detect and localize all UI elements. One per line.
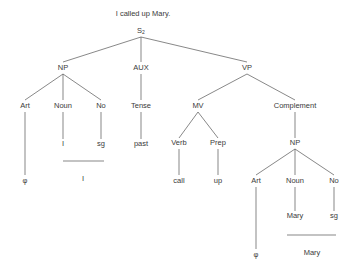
node-complement: Complement: [274, 102, 317, 110]
leaf-c-no: sg: [330, 212, 338, 220]
surface-np: I: [82, 175, 84, 183]
leaf-np-art: φ: [23, 177, 28, 185]
node-s-subscript: 2: [142, 29, 145, 35]
surface-c-np: Mary: [304, 249, 321, 257]
node-c-art: Art: [251, 177, 261, 185]
node-np-art: Art: [20, 102, 30, 110]
node-mv: MV: [192, 102, 203, 110]
node-s2: S2: [137, 27, 145, 35]
node-np-noun: Noun: [54, 102, 72, 110]
node-np: NP: [58, 64, 68, 72]
node-tense: Tense: [131, 102, 151, 110]
leaf-prep: up: [214, 177, 222, 185]
leaf-c-art: φ: [254, 251, 259, 259]
node-prep: Prep: [210, 139, 226, 147]
node-verb: Verb: [171, 139, 186, 147]
leaf-verb: call: [173, 177, 184, 185]
leaf-c-noun: Mary: [287, 212, 304, 220]
node-complement-np: NP: [290, 139, 300, 147]
node-np-no: No: [96, 102, 106, 110]
node-vp: VP: [242, 64, 252, 72]
leaf-tense: past: [134, 140, 148, 148]
leaf-np-noun: I: [62, 140, 64, 148]
leaf-np-no: sg: [97, 140, 105, 148]
node-aux: AUX: [133, 64, 148, 72]
node-c-no: No: [329, 177, 339, 185]
node-c-noun: Noun: [286, 177, 304, 185]
sentence-title: I called up Mary.: [116, 10, 170, 18]
